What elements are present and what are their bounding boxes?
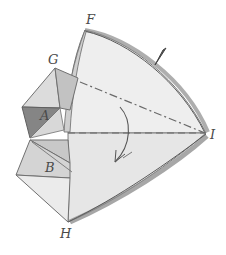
flap-g-top-face: [22, 68, 60, 108]
folding-diagram: F G A B H I: [0, 0, 226, 255]
label-i: I: [209, 127, 216, 142]
label-f: F: [85, 12, 96, 27]
upper-cone-face: [68, 30, 206, 133]
flap-b-bottom-face: [16, 175, 70, 222]
lower-cone-face: [68, 133, 206, 222]
label-h: H: [59, 226, 72, 241]
pencil-mark-icon: [155, 48, 166, 65]
label-b: B: [44, 160, 55, 175]
label-g: G: [48, 52, 58, 67]
label-a: A: [39, 108, 49, 123]
